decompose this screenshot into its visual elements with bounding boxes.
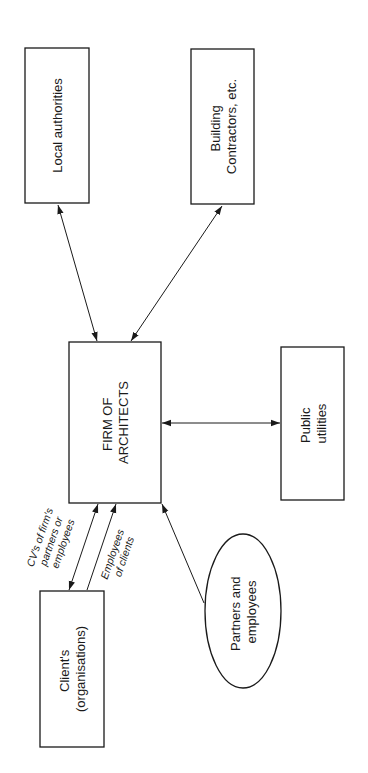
node-local-authorities: Local authorities [25,48,89,203]
node-building-contractors: Building Contractors, etc. [191,49,254,204]
node-partners-employees: Partners and employees [205,534,281,688]
node-label-line-2: Contractors, etc. [224,79,239,174]
edge-partners-firm [162,504,204,603]
node-clients: Client's (organisations) [40,591,104,747]
node-label-line-2: utilities [314,403,329,443]
node-label-line-1: Public [298,407,313,443]
node-public-utilities: Public utilities [281,347,344,500]
svg-text:Public utilities: Public utilities [298,403,329,443]
node-label-line-1: Building [208,105,223,151]
edge-firm-local-authorities [58,205,97,341]
edge-clients-firm-cvs [69,504,98,590]
node-label-line-2: ARCHITECTS [116,381,131,464]
node-firm-of-architects: FIRM OF ARCHITECTS [69,342,161,503]
svg-text:Partners and employees: Partners and employees [228,573,259,651]
diagram-canvas: Local authorities Building Contractors, … [0,0,368,773]
node-label-line-1: Client's [57,649,72,692]
edge-firm-building-contractors [131,206,222,341]
node-label: Local authorities [50,78,65,173]
node-label-line-2: employees [244,580,259,643]
svg-text:Local authorities: Local authorities [50,78,65,173]
node-label-line-2: (organisations) [73,626,88,712]
node-label-line-1: Partners and [228,577,243,651]
edge-label-employees-of-clients: Employees of clients [98,525,139,585]
node-label-line-1: FIRM OF [100,398,115,451]
edge-label-cvs: CV's of firm's partners or employees [24,504,79,576]
